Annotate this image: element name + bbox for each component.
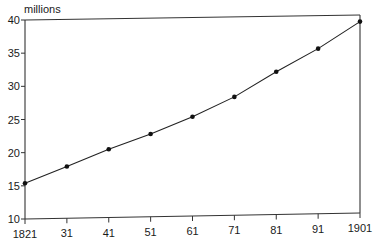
y-axis-label: millions	[24, 3, 61, 15]
y-tick-label: 25	[8, 114, 20, 126]
data-point	[274, 69, 279, 74]
data-point	[358, 19, 363, 24]
x-tick-label: 31	[61, 227, 73, 239]
x-tick-label: 1821	[13, 228, 37, 240]
y-tick-label: 35	[8, 47, 20, 59]
y-axis: 10152025303540	[8, 14, 25, 225]
data-point	[23, 181, 28, 186]
data-point	[232, 95, 237, 100]
data-point	[190, 114, 195, 119]
x-tick-label: 61	[186, 225, 198, 237]
population-line-chart: millions 10152025303540 1821314151617181…	[0, 0, 374, 246]
x-tick-label: 91	[312, 223, 324, 235]
y-tick-label: 20	[8, 147, 20, 159]
series-line	[25, 22, 360, 184]
x-tick-label: 51	[145, 226, 157, 238]
x-axis: 1821314151617181911901	[13, 213, 372, 240]
y-tick-label: 40	[8, 14, 20, 26]
x-tick-label: 41	[103, 227, 115, 239]
x-tick-label: 1901	[348, 222, 372, 234]
y-tick-label: 10	[8, 213, 20, 225]
data-point	[316, 46, 321, 51]
x-tick-label: 81	[270, 224, 282, 236]
x-tick-label: 71	[228, 224, 240, 236]
data-point	[65, 164, 70, 169]
y-tick-label: 15	[8, 180, 20, 192]
data-point	[106, 147, 111, 152]
data-series	[23, 19, 363, 185]
y-tick-label: 30	[8, 80, 20, 92]
data-point	[148, 132, 153, 137]
